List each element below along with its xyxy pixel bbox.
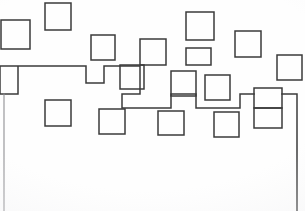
line-art-canvas: Abstract orthogonal line drawing Scatter… xyxy=(0,0,305,211)
drawing-surface xyxy=(0,0,305,211)
